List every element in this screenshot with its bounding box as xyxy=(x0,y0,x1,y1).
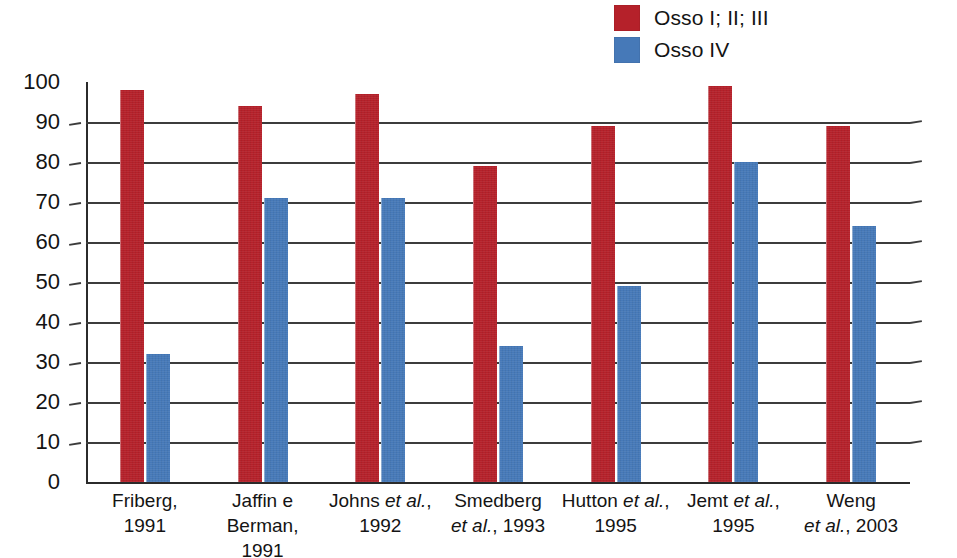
bar-osso-iv-2 xyxy=(381,198,405,482)
y-tick-mark-40 xyxy=(69,322,81,326)
y-tick-mark-right-10 xyxy=(910,440,922,444)
bar-osso-i-ii-iii-1 xyxy=(238,106,262,482)
bar-osso-iv-3 xyxy=(499,346,523,482)
bar-osso-i-ii-iii-0 xyxy=(120,90,144,482)
y-tick-mark-20 xyxy=(69,402,81,406)
y-tick-mark-70 xyxy=(69,202,81,206)
x-axis-label-6: Wenget al., 2003 xyxy=(792,488,910,538)
legend-label-osso-i-ii-iii: Osso I; II; III xyxy=(654,5,769,31)
legend-label-osso-iv: Osso IV xyxy=(654,37,729,63)
y-tick-label-30: 30 xyxy=(36,351,60,373)
y-tick-label-20: 20 xyxy=(36,391,60,413)
bar-osso-iv-6 xyxy=(852,226,876,482)
bar-osso-i-ii-iii-6 xyxy=(826,126,850,482)
y-tick-label-50: 50 xyxy=(36,271,60,293)
y-tick-label-40: 40 xyxy=(36,311,60,333)
x-axis-labels: Friberg,1991Jaffin eBerman, 1991Johns et… xyxy=(86,488,910,554)
y-tick-label-0: 0 xyxy=(48,471,60,493)
y-tick-mark-30 xyxy=(69,362,81,366)
x-axis-label-5: Jemt et al.,1995 xyxy=(675,488,793,538)
x-axis-label-3: Smedberget al., 1993 xyxy=(439,488,557,538)
y-tick-mark-right-60 xyxy=(910,240,922,244)
y-tick-mark-60 xyxy=(69,242,81,246)
y-tick-label-10: 10 xyxy=(36,431,60,453)
y-tick-mark-right-30 xyxy=(910,360,922,364)
y-tick-mark-80 xyxy=(69,162,81,166)
legend-swatch-osso-i-ii-iii xyxy=(614,5,640,31)
y-tick-label-60: 60 xyxy=(36,231,60,253)
y-tick-mark-90 xyxy=(69,122,81,126)
chart-legend: Osso I; II; III Osso IV xyxy=(614,5,769,63)
y-tick-label-100: 100 xyxy=(23,71,60,93)
bar-chart: Osso I; II; III Osso IV 0102030405060708… xyxy=(0,0,957,558)
bar-osso-i-ii-iii-3 xyxy=(473,166,497,482)
y-tick-label-70: 70 xyxy=(36,191,60,213)
x-axis-label-0: Friberg,1991 xyxy=(86,488,204,538)
y-tick-label-90: 90 xyxy=(36,111,60,133)
y-tick-label-80: 80 xyxy=(36,151,60,173)
legend-swatch-osso-iv xyxy=(614,37,640,63)
legend-item-osso-i-ii-iii: Osso I; II; III xyxy=(614,5,769,31)
x-axis-label-1: Jaffin eBerman, 1991 xyxy=(204,488,322,558)
legend-item-osso-iv: Osso IV xyxy=(614,37,769,63)
bar-osso-i-ii-iii-5 xyxy=(708,86,732,482)
y-tick-mark-right-40 xyxy=(910,320,922,324)
y-tick-mark-right-90 xyxy=(910,120,922,124)
gridline-0 xyxy=(86,482,910,484)
x-axis-label-2: Johns et al.,1992 xyxy=(321,488,439,538)
x-axis-label-4: Hutton et al.,1995 xyxy=(557,488,675,538)
y-tick-mark-right-20 xyxy=(910,400,922,404)
y-tick-mark-right-50 xyxy=(910,280,922,284)
bars-layer xyxy=(86,82,910,482)
bar-osso-iv-1 xyxy=(264,198,288,482)
bar-osso-iv-5 xyxy=(734,162,758,482)
y-tick-mark-50 xyxy=(69,282,81,286)
y-tick-mark-10 xyxy=(69,442,81,446)
bar-osso-i-ii-iii-2 xyxy=(355,94,379,482)
plot-area: 0102030405060708090100 xyxy=(86,82,910,482)
y-tick-mark-right-80 xyxy=(910,160,922,164)
bar-osso-i-ii-iii-4 xyxy=(591,126,615,482)
bar-osso-iv-0 xyxy=(146,354,170,482)
y-tick-mark-right-70 xyxy=(910,200,922,204)
bar-osso-iv-4 xyxy=(617,286,641,482)
